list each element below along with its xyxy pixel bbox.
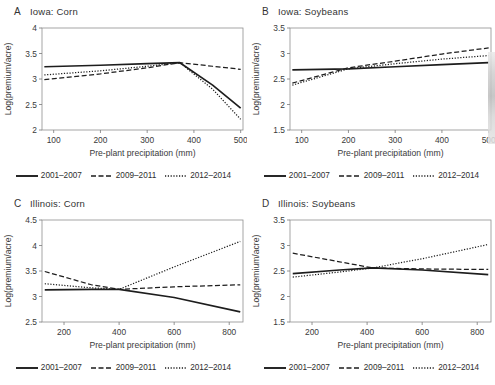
panel-b-title: BIowa: Soybeans [262,6,348,17]
panel-c-letter: C [14,198,30,209]
legend-item-solid: 2001–2007 [16,364,82,372]
svg-text:300: 300 [388,135,402,145]
series-line-solid [44,63,240,108]
panel-a-title-text: Iowa: Corn [30,6,78,17]
panel-b-svg: 1.522.533.5100200300400500Pre-plant prec… [248,20,495,160]
series-line-dotted [292,56,488,86]
legend-label: 2012–2014 [190,364,231,372]
svg-text:1.5: 1.5 [273,125,285,135]
series-line-dashed [45,272,241,290]
legend-item-dashed: 2009–2011 [91,364,156,372]
legend-item-dashed: 2009–2011 [339,364,404,372]
legend-key-dotted-icon [165,365,187,371]
legend-key-solid-icon [264,173,286,179]
legend-key-solid-icon [16,365,38,371]
legend-item-dotted: 2012–2014 [413,172,479,180]
svg-text:2.5: 2.5 [25,100,37,110]
series-line-dotted [44,63,240,120]
panel-a-svg: 22.533.54100200300400500Pre-plant precip… [0,20,247,160]
svg-text:2.5: 2.5 [273,74,285,84]
legend-item-dashed: 2009–2011 [91,172,156,180]
legend-label: 2009–2011 [116,364,156,372]
figure-multipanel-regression-plots: AIowa: Corn 22.533.54100200300400500Pre-… [0,0,495,385]
legend-label: 2012–2014 [438,364,479,372]
legend-key-dashed-icon [339,173,361,179]
legend-key-dashed-icon [91,365,113,371]
legend-key-dotted-icon [165,173,187,179]
svg-text:400: 400 [360,327,374,337]
panel-b-legend: 2001–20072009–20112012–2014 [248,167,495,185]
series-line-dashed [292,48,488,83]
panel-c-title-text: Illinois: Corn [30,198,85,209]
svg-text:500: 500 [234,135,247,145]
legend-key-solid-icon [16,173,38,179]
svg-text:4.5: 4.5 [25,215,37,225]
legend-key-dashed-icon [91,173,113,179]
svg-text:2: 2 [280,100,285,110]
svg-text:3.5: 3.5 [25,49,37,59]
svg-text:200: 200 [341,135,355,145]
panel-a-legend: 2001–20072009–20112012–2014 [0,167,247,185]
panel-a-letter: A [14,6,30,17]
svg-text:Pre-plant precipitation (mm): Pre-plant precipitation (mm) [89,148,195,158]
series-line-dashed [293,253,489,269]
series-line-solid [45,289,241,311]
svg-text:400: 400 [187,135,201,145]
scan-edge-artifact [488,52,495,144]
svg-text:3.5: 3.5 [273,23,285,33]
svg-text:400: 400 [435,135,449,145]
svg-text:3: 3 [280,241,285,251]
legend-label: 2009–2011 [116,172,156,180]
svg-text:100: 100 [295,135,309,145]
legend-label: 2001–2007 [41,172,82,180]
svg-text:Log(premium/acre): Log(premium/acre) [251,235,261,308]
svg-text:Log(premium/acre): Log(premium/acre) [3,235,13,308]
legend-label: 2012–2014 [438,172,479,180]
svg-text:3.5: 3.5 [273,215,285,225]
svg-text:100: 100 [47,135,61,145]
panel-c-svg: 2.533.544.5200400600800Pre-plant precipi… [0,212,247,352]
svg-text:300: 300 [140,135,154,145]
svg-text:3: 3 [32,74,37,84]
panel-d-plot: 1.522.533.5200400600800Pre-plant precipi… [248,212,495,352]
legend-item-solid: 2001–2007 [16,172,82,180]
svg-text:Pre-plant precipitation (mm): Pre-plant precipitation (mm) [337,148,443,158]
svg-text:600: 600 [415,327,429,337]
panel-d-title-text: Illinois: Soybeans [278,198,356,209]
panel-b-plot: 1.522.533.5100200300400500Pre-plant prec… [248,20,495,160]
svg-text:Log(premium/acre): Log(premium/acre) [3,43,13,116]
panel-a-plot: 22.533.54100200300400500Pre-plant precip… [0,20,247,160]
series-line-dotted [45,241,241,289]
svg-text:200: 200 [57,327,71,337]
svg-text:800: 800 [470,327,484,337]
legend-item-solid: 2001–2007 [264,364,330,372]
legend-label: 2012–2014 [190,172,231,180]
legend-key-dotted-icon [413,365,435,371]
panel-a-title: AIowa: Corn [14,6,78,17]
panel-b: BIowa: Soybeans 1.522.533.51002003004005… [248,0,495,192]
svg-text:2: 2 [32,125,37,135]
svg-text:1.5: 1.5 [273,317,285,327]
panel-a: AIowa: Corn 22.533.54100200300400500Pre-… [0,0,247,192]
legend-item-dashed: 2009–2011 [339,172,404,180]
panel-d: DIllinois: Soybeans 1.522.533.5200400600… [248,192,495,384]
svg-text:200: 200 [93,135,107,145]
legend-item-dotted: 2012–2014 [413,364,479,372]
svg-text:4: 4 [32,241,37,251]
svg-text:Log(premium/acre): Log(premium/acre) [251,43,261,116]
panel-c: CIllinois: Corn 2.533.544.5200400600800P… [0,192,247,384]
svg-text:2: 2 [280,292,285,302]
svg-text:200: 200 [305,327,319,337]
panel-c-legend: 2001–20072009–20112012–2014 [0,359,247,377]
legend-label: 2009–2011 [364,364,404,372]
svg-text:3: 3 [280,49,285,59]
panel-c-title: CIllinois: Corn [14,198,85,209]
panel-d-svg: 1.522.533.5200400600800Pre-plant precipi… [248,212,495,352]
legend-label: 2001–2007 [289,364,330,372]
series-line-solid [292,63,488,70]
svg-text:800: 800 [222,327,236,337]
legend-item-dotted: 2012–2014 [165,364,231,372]
svg-text:4: 4 [32,23,37,33]
svg-text:400: 400 [112,327,126,337]
svg-text:2.5: 2.5 [273,266,285,276]
